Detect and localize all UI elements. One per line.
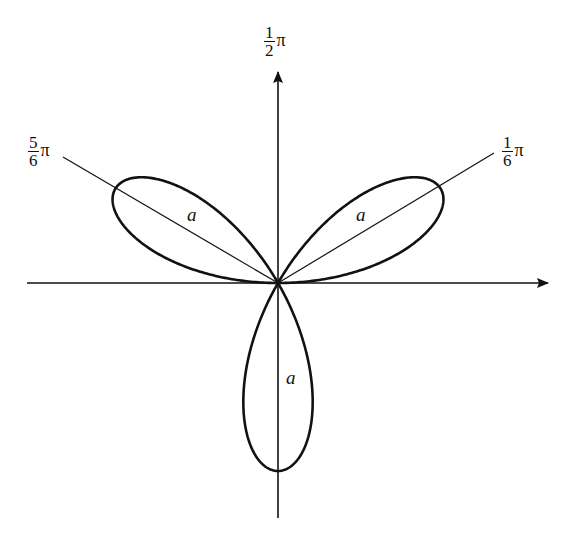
label-five-sixth-denominator: 6 [28, 151, 39, 169]
ray-five-sixth-pi [63, 157, 278, 283]
petal-label-upper-left: a [187, 204, 197, 226]
ray-one-sixth-pi [278, 153, 494, 283]
label-half-pi: 1 2 π [264, 24, 286, 59]
label-half-pi-numerator: 1 [264, 24, 275, 41]
label-half-pi-symbol: π [277, 30, 286, 51]
label-one-sixth-symbol: π [515, 140, 524, 161]
petal-label-lower: a [286, 367, 296, 389]
label-half-pi-denominator: 2 [264, 41, 275, 59]
label-one-sixth-pi: 1 6 π [502, 134, 524, 169]
label-five-sixth-numerator: 5 [28, 134, 39, 151]
petal-label-upper-right: a [356, 204, 366, 226]
label-five-sixth-symbol: π [41, 140, 50, 161]
label-five-sixth-pi: 5 6 π [28, 134, 50, 169]
label-one-sixth-numerator: 1 [502, 134, 513, 151]
rose-curve-diagram [0, 0, 569, 547]
label-one-sixth-denominator: 6 [502, 151, 513, 169]
